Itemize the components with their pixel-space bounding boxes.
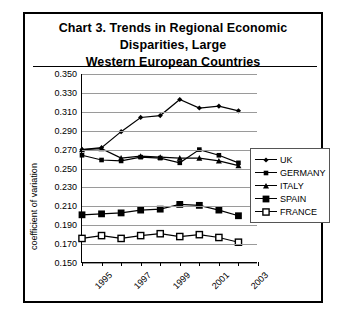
y-axis-label: coefficient of variation xyxy=(27,142,41,272)
legend-item-italy[interactable]: ITALY xyxy=(254,179,325,192)
data-point-germany xyxy=(80,153,85,158)
data-point-spain xyxy=(118,210,125,217)
data-point-france xyxy=(138,232,144,238)
gridline xyxy=(82,74,257,75)
x-tick-label: 2001 xyxy=(210,270,231,291)
legend-marker-small-diamond-icon xyxy=(254,155,278,165)
data-point-germany xyxy=(177,161,182,166)
y-axis-tick-labels: 0.3500.3300.3100.2900.2700.2500.2300.210… xyxy=(41,70,81,267)
y-tick-label: 0.270 xyxy=(54,145,77,155)
legend-label: UK xyxy=(278,155,293,165)
data-point-spain xyxy=(215,207,222,214)
y-tick-label: 0.170 xyxy=(54,239,77,249)
y-tick-label: 0.150 xyxy=(54,258,77,268)
gridline xyxy=(82,150,257,151)
data-point-france xyxy=(79,235,85,241)
gridline xyxy=(82,187,257,188)
data-point-france xyxy=(216,234,222,240)
data-point-spain xyxy=(137,207,144,214)
data-point-germany xyxy=(217,153,222,158)
gridline xyxy=(82,112,257,113)
y-tick-label: 0.190 xyxy=(54,220,77,230)
legend-item-uk[interactable]: UK xyxy=(254,153,325,166)
legend-label: SPAIN xyxy=(278,194,306,204)
y-tick-label: 0.350 xyxy=(54,69,77,79)
x-tick-label: 1997 xyxy=(132,270,153,291)
chart-title-line-1: Chart 3. Trends in Regional Economic Dis… xyxy=(33,20,313,54)
gridline xyxy=(82,93,257,94)
chart-figure: Chart 3. Trends in Regional Economic Dis… xyxy=(23,12,323,303)
data-point-germany xyxy=(99,158,104,163)
series-line-uk xyxy=(82,100,238,150)
y-tick-label: 0.210 xyxy=(54,201,77,211)
data-point-spain xyxy=(98,210,105,217)
legend-marker-open-square-icon xyxy=(254,207,278,217)
chart-title: Chart 3. Trends in Regional Economic Dis… xyxy=(25,20,321,71)
data-point-spain xyxy=(79,211,86,218)
title-divider xyxy=(33,66,317,67)
legend-label: FRANCE xyxy=(278,207,317,217)
data-point-france xyxy=(177,233,183,239)
data-point-france xyxy=(118,235,124,241)
legend-marker-large-square-icon xyxy=(254,194,278,204)
chart-legend: UKGERMANYITALYSPAINFRANCE xyxy=(250,148,330,223)
legend-marker-triangle-icon xyxy=(254,181,278,191)
y-tick-label: 0.290 xyxy=(54,126,77,136)
data-point-france xyxy=(157,231,163,237)
gridline xyxy=(82,206,257,207)
data-point-france xyxy=(98,232,104,238)
data-point-france xyxy=(196,232,202,238)
x-tick-label: 2003 xyxy=(249,270,270,291)
x-axis-tick-labels: 19951997199920012003 xyxy=(81,266,261,306)
data-point-spain xyxy=(235,212,242,219)
legend-item-spain[interactable]: SPAIN xyxy=(254,192,325,205)
gridline xyxy=(82,225,257,226)
legend-label: GERMANY xyxy=(278,168,326,178)
y-tick-label: 0.250 xyxy=(54,164,77,174)
x-tick-label: 1995 xyxy=(93,270,114,291)
plot-area-wrapper: coefficient of variation 0.3500.3300.310… xyxy=(25,70,321,301)
legend-label: ITALY xyxy=(278,181,304,191)
legend-marker-small-square-icon xyxy=(254,168,278,178)
legend-item-germany[interactable]: GERMANY xyxy=(254,166,325,179)
legend-item-france[interactable]: FRANCE xyxy=(254,205,325,218)
gridline xyxy=(82,169,257,170)
y-tick-label: 0.310 xyxy=(54,107,77,117)
data-point-uk xyxy=(216,104,221,109)
gridline xyxy=(82,263,257,264)
gridline xyxy=(82,131,257,132)
data-point-uk xyxy=(197,105,202,110)
gridline xyxy=(82,244,257,245)
x-tick-label: 1999 xyxy=(171,270,192,291)
y-tick-label: 0.230 xyxy=(54,182,77,192)
y-tick-label: 0.330 xyxy=(54,88,77,98)
plot-area xyxy=(81,74,257,263)
